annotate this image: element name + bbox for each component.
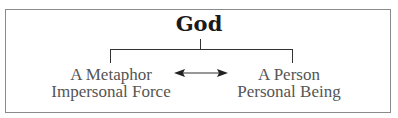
right-branch-drop [292,49,293,63]
right-node: A Person Personal Being [214,66,364,100]
right-node-line2: Personal Being [214,83,364,100]
branch-bar [110,49,293,50]
left-node-line1: A Metaphor [36,66,186,83]
diagram-title: God [0,12,398,36]
left-node-line2: Impersonal Force [36,83,186,100]
double-arrow-icon [174,67,228,79]
right-node-line1: A Person [214,66,364,83]
left-branch-drop [110,49,111,63]
left-node: A Metaphor Impersonal Force [36,66,186,100]
